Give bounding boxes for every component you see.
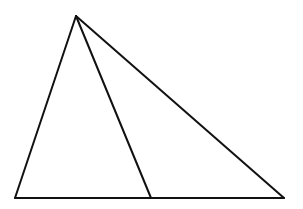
right-side xyxy=(76,16,284,198)
left-side xyxy=(15,16,76,198)
triangle-diagram xyxy=(0,0,303,209)
cevian xyxy=(76,16,151,198)
